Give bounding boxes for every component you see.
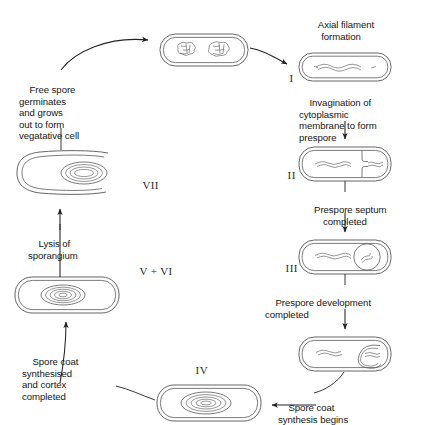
stage-marker-v-vi: V + VI: [127, 253, 173, 289]
diagram-canvas: Axial filament formation Free spore germ…: [0, 0, 434, 425]
label-spore-coat-synthesised-cortex: Spore coat synthesised and cortex comple…: [22, 345, 124, 413]
stage-marker-i: I: [277, 60, 294, 96]
label-lysis-of-sporangium: Lysis of sporangium: [28, 227, 124, 273]
cell-stage-vii: [17, 151, 108, 195]
label-free-spore-germinates: Free spore germinates and grows out to f…: [19, 73, 123, 153]
label-prespore-development-completed: Prespore development completed: [265, 286, 431, 332]
cell-stage-i: [299, 53, 391, 81]
stage-marker-iv: IV: [183, 352, 208, 388]
cell-stage-iv: [157, 385, 261, 421]
cell-stage-iii: [299, 240, 391, 274]
cell-spore-coat-forming: [299, 337, 391, 371]
arrow-germination-to-vegetative: [61, 39, 148, 70]
stage-marker-ii: II: [275, 157, 296, 193]
label-spore-coat-synthesis-begins: Spore coat synthesis begins: [278, 391, 428, 425]
label-prespore-septum-completed: Prespore septum completed: [283, 193, 407, 239]
stage-marker-iii: III: [273, 250, 298, 286]
leader-spore-coat-synthesis: [314, 372, 344, 393]
cell-stage-v-vi: [15, 277, 119, 313]
label-axial-filament-formation: Axial filament formation: [282, 8, 400, 54]
stage-marker-vii: VII: [130, 167, 159, 203]
label-invagination: Invagination of cytoplasmic membrane to …: [299, 86, 425, 154]
cell-vegetative: [160, 34, 248, 66]
